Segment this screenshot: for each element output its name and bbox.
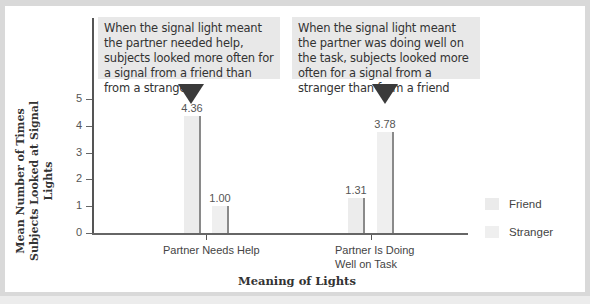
bar-friend-needs-help — [184, 116, 201, 233]
arrow-down-icon — [178, 84, 204, 104]
value-label: 3.78 — [365, 118, 405, 130]
bar-stranger-doing-well — [377, 132, 394, 233]
category-label-doing-well: Partner Is Doing Well on Task — [335, 243, 414, 271]
callout-doing-well: When the signal light meant the partner … — [292, 17, 480, 79]
y-tick — [86, 179, 92, 180]
legend-item-friend: Friend — [485, 198, 542, 210]
value-label: 1.00 — [200, 192, 240, 204]
y-tick-label: 1 — [72, 199, 82, 211]
y-tick — [86, 126, 92, 127]
y-tick-label: 5 — [72, 92, 82, 104]
y-tick-label: 4 — [72, 119, 82, 131]
y-tick — [86, 153, 92, 154]
value-label: 1.31 — [336, 184, 376, 196]
legend-label-friend: Friend — [509, 198, 542, 210]
x-axis — [92, 233, 468, 235]
y-tick-label: 3 — [72, 146, 82, 158]
y-tick-label: 0 — [72, 226, 82, 238]
y-axis-title-line1: Mean Number of Times — [14, 96, 28, 266]
category-label-needs-help: Partner Needs Help — [163, 243, 260, 257]
y-tick-label: 2 — [72, 172, 82, 184]
x-axis-title: Meaning of Lights — [238, 274, 356, 288]
value-label: 4.36 — [172, 102, 212, 114]
y-tick — [86, 233, 92, 234]
bar-friend-doing-well — [348, 198, 365, 233]
legend-swatch-stranger — [485, 226, 499, 238]
category-label-line1: Partner Is Doing — [335, 243, 414, 257]
legend-swatch-friend — [485, 198, 499, 210]
bottom-frame-band — [0, 296, 590, 304]
bar-stranger-needs-help — [212, 206, 229, 233]
y-axis-title-line2: Subjects Looked at Signal Lights — [28, 96, 56, 266]
arrow-down-icon — [372, 84, 398, 104]
legend-label-stranger: Stranger — [509, 226, 553, 238]
x-tick — [206, 235, 207, 240]
y-tick — [86, 206, 92, 207]
y-axis-title: Mean Number of Times Subjects Looked at … — [14, 96, 56, 266]
x-tick — [371, 235, 372, 240]
category-label-line2: Well on Task — [335, 257, 414, 271]
y-tick — [86, 99, 92, 100]
callout-needs-help: When the signal light meant the partner … — [98, 17, 280, 79]
y-axis — [92, 18, 94, 234]
legend-item-stranger: Stranger — [485, 226, 553, 238]
